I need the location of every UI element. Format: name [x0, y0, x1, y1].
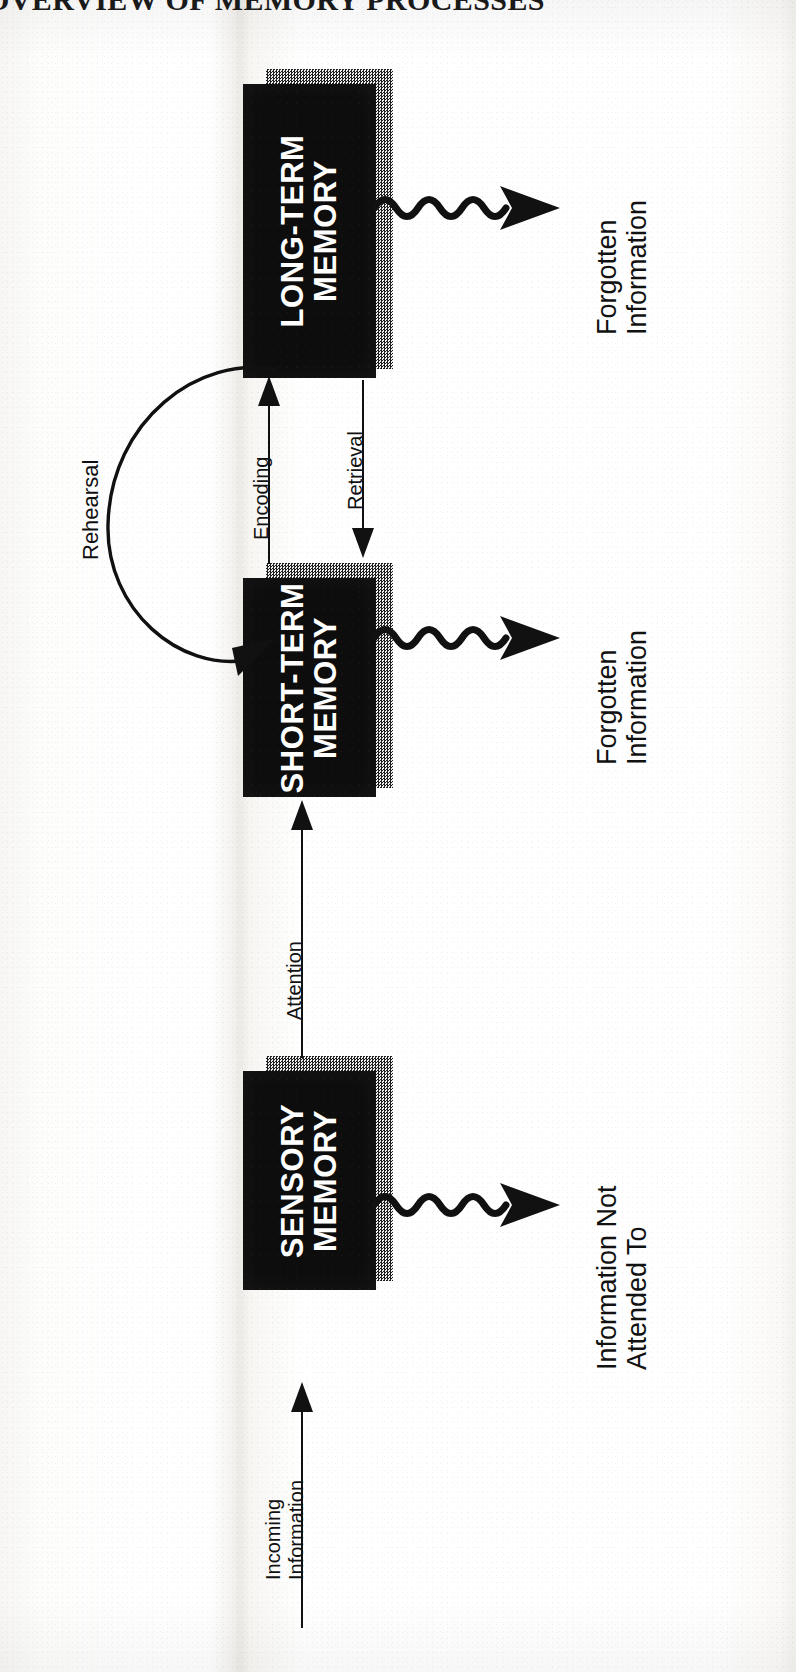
incoming-information-arrowhead [291, 1382, 313, 1412]
sensory-not-attended-label: Information Not Attended To [592, 1185, 652, 1370]
long-term-memory-box: LONG-TERMMEMORY [243, 84, 376, 378]
page-title: OVERVIEW OF MEMORY PROCESSES [0, 0, 526, 17]
sensory-memory-line2: MEMORY [308, 1110, 343, 1252]
long-term-memory-node[interactable]: LONG-TERMMEMORY [243, 69, 393, 384]
rehearsal-loop-arrow [80, 360, 310, 690]
sensory-memory-node[interactable]: SENSORYMEMORY [243, 1056, 393, 1296]
stm-forgotten-information-text: Forgotten Information [592, 630, 652, 765]
attention-label: Attention [283, 941, 306, 1020]
sensory-memory-label: SENSORYMEMORY [277, 1103, 343, 1258]
sensory-memory-line1: SENSORY [275, 1103, 310, 1258]
retrieval-label: Retrieval [344, 431, 367, 510]
long-term-memory-label: LONG-TERMMEMORY [277, 134, 343, 327]
long-term-memory-line1: LONG-TERM [275, 134, 310, 327]
retrieval-text: Retrieval [344, 431, 366, 510]
long-term-memory-line2: MEMORY [308, 160, 343, 302]
attention-text: Attention [283, 941, 305, 1020]
retrieval-arrowhead [352, 528, 374, 558]
stm-forgotten-information-label: Forgotten Information [592, 630, 652, 765]
ltm-forgotten-wavy-arrow [372, 178, 572, 238]
incoming-information-label: Incoming Information [262, 1480, 308, 1580]
scan-edge-shading [0, 0, 796, 1672]
attention-arrowhead [291, 800, 313, 830]
short-term-memory-line2: MEMORY [308, 617, 343, 759]
rehearsal-label: Rehearsal [78, 460, 104, 560]
incoming-information-text: Incoming Information [262, 1480, 307, 1580]
sensory-not-attended-text: Information Not Attended To [592, 1185, 652, 1370]
rehearsal-text: Rehearsal [78, 460, 103, 560]
sensory-memory-box: SENSORYMEMORY [243, 1071, 376, 1290]
sensory-not-attended-wavy-arrow [372, 1175, 572, 1235]
stm-forgotten-wavy-arrow [372, 608, 572, 668]
ltm-forgotten-information-label: Forgotten Information [592, 200, 652, 335]
ltm-forgotten-information-text: Forgotten Information [592, 200, 652, 335]
